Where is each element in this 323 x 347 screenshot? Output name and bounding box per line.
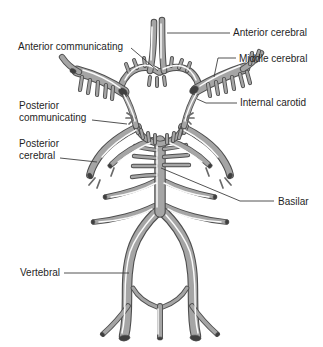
label-posterior-communicating: Posterior communicating (19, 100, 86, 123)
label-basilar: Basilar (278, 196, 309, 208)
label-internal-carotid: Internal carotid (240, 97, 306, 109)
leader-posterior-cerebral (60, 158, 97, 162)
circle-of-willis-diagram: Anterior communicating Anterior cerebral… (0, 0, 323, 347)
leader-internal-carotid (197, 99, 237, 103)
leader-posterior-communicating (92, 120, 127, 124)
label-vertebral: Vertebral (20, 267, 60, 279)
label-posterior-cerebral: Posterior cerebral (19, 138, 59, 161)
label-anterior-communicating: Anterior communicating (18, 41, 123, 53)
anterior-spinal-artery (133, 288, 187, 337)
label-middle-cerebral: Middle cerebral (239, 53, 307, 65)
label-anterior-cerebral: Anterior cerebral (233, 27, 307, 39)
